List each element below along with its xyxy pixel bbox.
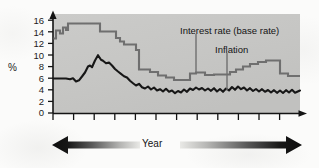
year-axis-arrow bbox=[52, 136, 302, 154]
y-tick-label-4: 4 bbox=[20, 85, 44, 95]
y-tick-label-8: 8 bbox=[20, 62, 44, 72]
y-tick-label-10: 10 bbox=[20, 51, 44, 61]
annotation-interest-rate: Interest rate (base rate) bbox=[180, 26, 279, 36]
y-tick-label-2: 2 bbox=[20, 97, 44, 107]
chart-screenshot: 0 2 4 6 8 10 12 14 16 % Interest rate (b… bbox=[0, 0, 319, 168]
x-axis-ticks bbox=[53, 114, 280, 121]
annotation-inflation: Inflation bbox=[215, 45, 248, 55]
line-chart-figure: 0 2 4 6 8 10 12 14 16 % Interest rate (b… bbox=[0, 0, 319, 168]
y-tick-label-0: 0 bbox=[20, 108, 44, 118]
y-tick-label-14: 14 bbox=[20, 28, 44, 38]
y-axis-title: % bbox=[8, 62, 17, 73]
arrow-left-icon bbox=[52, 136, 140, 154]
y-tick-label-16: 16 bbox=[20, 16, 44, 26]
arrow-right-icon bbox=[299, 110, 308, 117]
y-tick-label-12: 12 bbox=[20, 39, 44, 49]
x-axis-title: Year bbox=[142, 138, 162, 149]
y-tick-label-6: 6 bbox=[20, 74, 44, 84]
arrow-right-icon bbox=[180, 136, 302, 154]
